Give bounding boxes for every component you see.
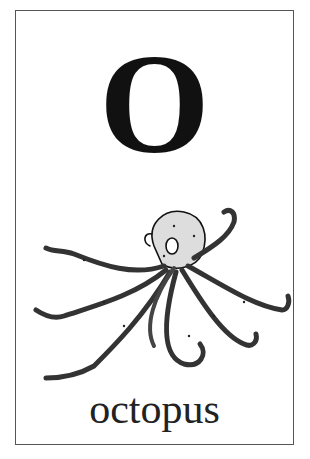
card-word: octopus xyxy=(16,384,293,434)
octopus-illustration xyxy=(24,206,294,396)
letter-heading: O xyxy=(16,33,293,175)
flashcard: O octopus xyxy=(15,10,294,445)
